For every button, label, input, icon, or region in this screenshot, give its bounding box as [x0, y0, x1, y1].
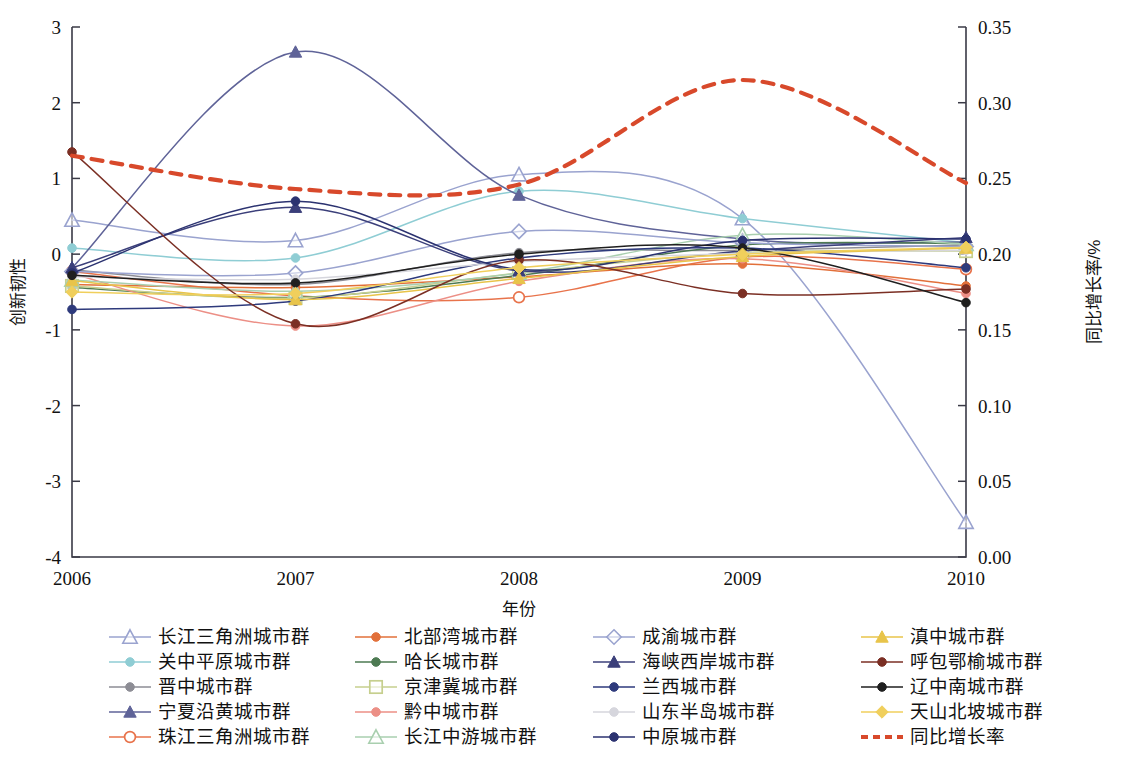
legend-swatch — [592, 728, 636, 746]
legend-sample-icon — [592, 703, 636, 721]
y-axis-tick-label: -2 — [45, 396, 61, 417]
chart-plot-area: 3210-1-2-3-40.350.300.250.200.150.100.05… — [0, 0, 1126, 630]
series-point-marker — [738, 214, 747, 223]
y2-axis-tick-label: 0.10 — [978, 396, 1011, 417]
legend-swatch — [592, 628, 636, 646]
legend-sample-icon — [354, 728, 398, 746]
legend-sample-icon — [108, 703, 152, 721]
series-point-marker — [68, 271, 77, 280]
legend-item-label: 晋中城市群 — [158, 678, 253, 696]
series-point-marker — [514, 292, 525, 303]
legend-item-label: 京津冀城市群 — [404, 678, 518, 696]
legend-item[interactable]: 成渝城市群 — [592, 624, 860, 649]
series-point-marker — [291, 279, 300, 288]
x-axis-tick-label: 2009 — [724, 568, 762, 589]
legend-item[interactable]: 兰西城市群 — [592, 674, 860, 699]
legend-item[interactable]: 珠江三角洲城市群 — [108, 724, 354, 749]
legend-sample-icon — [108, 678, 152, 696]
legend-swatch — [108, 678, 152, 696]
series-point-marker — [291, 197, 300, 206]
legend-marker — [610, 707, 619, 716]
legend-item-label: 呼包鄂榆城市群 — [910, 653, 1043, 671]
legend-sample-icon — [592, 628, 636, 646]
legend-item[interactable]: 滇中城市群 — [860, 624, 1110, 649]
x-axis-tick-label: 2006 — [53, 568, 91, 589]
series-point-marker — [962, 285, 971, 294]
legend-marker — [610, 732, 619, 741]
series-point-marker — [959, 515, 973, 528]
legend-swatch — [354, 628, 398, 646]
series-point-marker — [962, 298, 971, 307]
legend-item-label: 长江三角洲城市群 — [158, 628, 310, 646]
legend-item[interactable]: 晋中城市群 — [108, 674, 354, 699]
legend-item-label: 天山北坡城市群 — [910, 703, 1043, 721]
legend-sample-icon — [354, 678, 398, 696]
legend-swatch — [108, 628, 152, 646]
legend-sample-icon — [108, 728, 152, 746]
legend-marker — [372, 657, 381, 666]
legend-marker — [126, 657, 135, 666]
y2-axis-tick-label: 0.00 — [978, 547, 1011, 568]
y-axis-tick-label: 1 — [52, 168, 62, 189]
series-point-marker — [962, 263, 971, 272]
legend-item[interactable]: 北部湾城市群 — [354, 624, 592, 649]
legend-marker — [372, 632, 381, 641]
legend-item[interactable]: 天山北坡城市群 — [860, 699, 1110, 724]
legend-sample-icon — [108, 628, 152, 646]
legend-swatch — [354, 703, 398, 721]
legend-sample-icon — [592, 653, 636, 671]
legend-item[interactable]: 山东半岛城市群 — [592, 699, 860, 724]
legend-item-label: 成渝城市群 — [642, 628, 737, 646]
legend-item-label: 长江中游城市群 — [404, 728, 537, 746]
legend-item-label: 滇中城市群 — [910, 628, 1005, 646]
legend-marker — [372, 707, 381, 716]
legend-swatch — [108, 653, 152, 671]
legend-item[interactable]: 辽中南城市群 — [860, 674, 1110, 699]
legend-item[interactable]: 长江中游城市群 — [354, 724, 592, 749]
legend-swatch — [860, 728, 904, 746]
series-point-marker — [512, 224, 526, 238]
x-axis-tick-label: 2007 — [277, 568, 315, 589]
legend-sample-icon — [860, 728, 904, 746]
legend-item-label: 北部湾城市群 — [404, 628, 518, 646]
legend-swatch — [860, 653, 904, 671]
y2-axis-tick-label: 0.15 — [978, 320, 1011, 341]
legend-marker — [878, 682, 887, 691]
legend-swatch — [592, 653, 636, 671]
x-axis-tick-label: 2010 — [947, 568, 985, 589]
legend-item[interactable]: 中原城市群 — [592, 724, 860, 749]
legend-item[interactable]: 海峡西岸城市群 — [592, 649, 860, 674]
legend-item-label: 海峡西岸城市群 — [642, 653, 775, 671]
series-group — [65, 46, 973, 529]
legend-item-label: 哈长城市群 — [404, 653, 499, 671]
series-point-marker — [65, 213, 79, 226]
legend-item-label: 辽中南城市群 — [910, 678, 1024, 696]
legend-swatch — [354, 728, 398, 746]
legend-item[interactable]: 呼包鄂榆城市群 — [860, 649, 1110, 674]
y-axis-tick-label: 2 — [52, 93, 62, 114]
legend-marker — [370, 680, 382, 692]
legend-sample-icon — [354, 703, 398, 721]
legend-item[interactable]: 长江三角洲城市群 — [108, 624, 354, 649]
legend-item-label: 中原城市群 — [642, 728, 737, 746]
x-axis-tick-label: 2008 — [500, 568, 538, 589]
chart-figure: 3210-1-2-3-40.350.300.250.200.150.100.05… — [0, 0, 1126, 765]
legend-grid: 长江三角洲城市群北部湾城市群成渝城市群滇中城市群关中平原城市群哈长城市群海峡西岸… — [108, 624, 1126, 749]
legend-item-label: 关中平原城市群 — [158, 653, 291, 671]
legend-item[interactable]: 京津冀城市群 — [354, 674, 592, 699]
axes-group: 3210-1-2-3-40.350.300.250.200.150.100.05… — [9, 17, 1104, 619]
legend-item-label: 同比增长率 — [910, 728, 1005, 746]
legend-sample-icon — [860, 653, 904, 671]
legend-item[interactable]: 关中平原城市群 — [108, 649, 354, 674]
legend-sample-icon — [860, 703, 904, 721]
legend-item-label: 黔中城市群 — [404, 703, 499, 721]
legend-item[interactable]: 宁夏沿黄城市群 — [108, 699, 354, 724]
chart-canvas: 3210-1-2-3-40.350.300.250.200.150.100.05… — [0, 0, 1126, 630]
legend-item[interactable]: 黔中城市群 — [354, 699, 592, 724]
legend-item[interactable]: 同比增长率 — [860, 724, 1110, 749]
legend-item-label: 珠江三角洲城市群 — [158, 728, 310, 746]
y2-axis-tick-label: 0.20 — [978, 244, 1011, 265]
legend-sample-icon — [860, 678, 904, 696]
series-point-marker — [291, 254, 300, 263]
legend-item[interactable]: 哈长城市群 — [354, 649, 592, 674]
